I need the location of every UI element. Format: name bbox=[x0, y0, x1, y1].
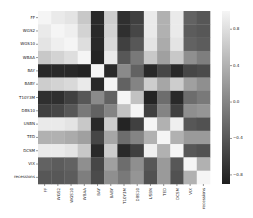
heatmap-cell bbox=[64, 131, 78, 145]
heatmap-cell bbox=[157, 157, 171, 171]
y-tick-label: DCSM bbox=[23, 149, 35, 153]
heatmap-cell bbox=[51, 24, 65, 38]
heatmap-cell bbox=[131, 131, 145, 145]
heatmap-cell bbox=[184, 157, 198, 171]
heatmap-cell bbox=[91, 11, 105, 25]
heatmap-cell bbox=[104, 157, 118, 171]
heatmap-cell bbox=[144, 117, 158, 131]
heatmap-cell bbox=[91, 38, 105, 52]
heatmap-cell bbox=[117, 38, 131, 52]
heatmap-cell bbox=[144, 131, 158, 145]
heatmap-cell bbox=[170, 117, 184, 131]
heatmap-cell bbox=[144, 91, 158, 105]
heatmap-cell bbox=[157, 91, 171, 105]
heatmap-cell bbox=[131, 24, 145, 38]
x-tick-label: TED bbox=[162, 188, 167, 196]
colorbar-tick-label: −0.8 bbox=[233, 173, 243, 177]
heatmap-cell bbox=[157, 64, 171, 78]
heatmap-cell bbox=[117, 171, 131, 185]
heatmap-cell bbox=[38, 11, 52, 25]
y-tick-label: T10Y3M bbox=[19, 96, 35, 100]
heatmap-cell bbox=[170, 78, 184, 92]
x-tick-label: WBAA bbox=[82, 188, 87, 200]
heatmap-cell bbox=[104, 24, 118, 38]
heatmap-cell bbox=[91, 64, 105, 78]
heatmap-cell bbox=[144, 51, 158, 65]
heatmap-cell bbox=[104, 104, 118, 118]
heatmap-cell bbox=[104, 51, 118, 65]
heatmap-cell bbox=[144, 157, 158, 171]
heatmap-cell bbox=[184, 117, 198, 131]
heatmap-cell bbox=[157, 11, 171, 25]
heatmap-cell bbox=[78, 24, 92, 38]
heatmap-cell bbox=[78, 91, 92, 105]
heatmap-cell bbox=[51, 157, 65, 171]
heatmap-cell bbox=[78, 38, 92, 52]
heatmap-cell bbox=[38, 104, 52, 118]
y-tick-label: FF bbox=[30, 16, 35, 20]
heatmap-cell bbox=[51, 11, 65, 25]
heatmap-cell bbox=[38, 157, 52, 171]
heatmap-cell bbox=[51, 117, 65, 131]
heatmap-cell bbox=[38, 24, 52, 38]
x-tick-label: FF bbox=[43, 188, 48, 193]
correlation-heatmap: FFWGS2WGS10WBAABAYBABYT10Y3MDBS10USBNTED… bbox=[0, 0, 253, 218]
heatmap-cell bbox=[197, 64, 211, 78]
heatmap-cell bbox=[184, 24, 198, 38]
heatmap-cell bbox=[197, 171, 211, 185]
heatmap-cell bbox=[197, 117, 211, 131]
x-tick-label: BABY bbox=[109, 188, 114, 198]
heatmap-cell bbox=[78, 117, 92, 131]
y-tick-label: recessions bbox=[14, 175, 35, 179]
heatmap-cell bbox=[131, 144, 145, 158]
heatmap-cell bbox=[117, 51, 131, 65]
heatmap-cell bbox=[170, 38, 184, 52]
heatmap-cell bbox=[157, 24, 171, 38]
x-tick-label: T10Y3M bbox=[122, 188, 127, 204]
heatmap-cell bbox=[38, 38, 52, 52]
heatmap-cell bbox=[197, 38, 211, 52]
heatmap-cell bbox=[144, 144, 158, 158]
heatmap-cell bbox=[51, 38, 65, 52]
heatmap-cell bbox=[117, 157, 131, 171]
colorbar bbox=[222, 11, 230, 184]
heatmap-cell bbox=[51, 171, 65, 185]
heatmap-cell bbox=[197, 78, 211, 92]
x-tick-label: WGS10 bbox=[69, 188, 74, 203]
heatmap-cell bbox=[131, 104, 145, 118]
heatmap-cell bbox=[104, 144, 118, 158]
heatmap-cell bbox=[38, 117, 52, 131]
heatmap-cell bbox=[91, 171, 105, 185]
heatmap-cell bbox=[104, 117, 118, 131]
heatmap-cell bbox=[117, 144, 131, 158]
heatmap-cell bbox=[91, 24, 105, 38]
heatmap-cell bbox=[78, 11, 92, 25]
heatmap-cell bbox=[117, 11, 131, 25]
heatmap-cell bbox=[64, 104, 78, 118]
heatmap-cell bbox=[104, 64, 118, 78]
heatmap-cell bbox=[64, 171, 78, 185]
y-tick-label: WBAA bbox=[23, 56, 35, 60]
y-tick-label: WGS10 bbox=[20, 42, 35, 46]
heatmap-cell bbox=[157, 144, 171, 158]
heatmap-cell bbox=[184, 11, 198, 25]
heatmap-cell bbox=[64, 38, 78, 52]
x-tick-label: USBN bbox=[148, 188, 153, 199]
heatmap-cell bbox=[117, 131, 131, 145]
heatmap-cell bbox=[131, 38, 145, 52]
heatmap-cell bbox=[157, 117, 171, 131]
heatmap-cell bbox=[184, 78, 198, 92]
heatmap-cell bbox=[38, 91, 52, 105]
heatmap-cell bbox=[91, 51, 105, 65]
heatmap-cell bbox=[184, 131, 198, 145]
heatmap-cell bbox=[144, 24, 158, 38]
heatmap-cell bbox=[117, 64, 131, 78]
heatmap-cell bbox=[144, 64, 158, 78]
heatmap-cell bbox=[64, 117, 78, 131]
heatmap-cell bbox=[184, 104, 198, 118]
heatmap-cell bbox=[197, 144, 211, 158]
heatmap-cell bbox=[184, 51, 198, 65]
y-tick-label: TED bbox=[27, 135, 35, 139]
heatmap-cell bbox=[104, 38, 118, 52]
colorbar-tick-label: −0.4 bbox=[233, 136, 243, 140]
